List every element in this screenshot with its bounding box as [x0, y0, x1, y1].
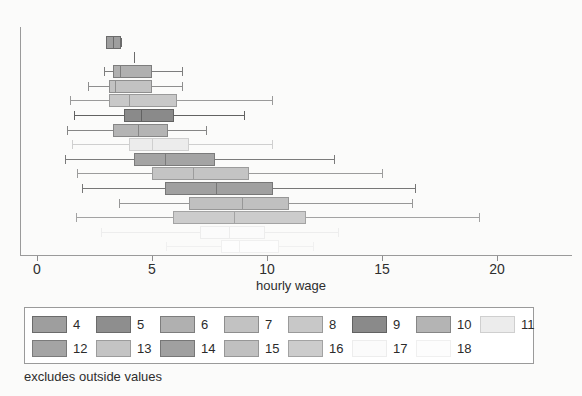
legend-entry[interactable]: 10: [416, 316, 473, 333]
legend-entry[interactable]: 11: [480, 316, 537, 333]
legend-label: 18: [457, 341, 473, 356]
legend-row: 4567891011: [32, 313, 544, 335]
legend-entry[interactable]: 18: [416, 340, 473, 357]
box-iqr: [173, 211, 306, 224]
upper-whisker: [174, 115, 244, 116]
upper-whisker-cap: [412, 199, 413, 208]
lower-whisker-cap: [72, 140, 73, 149]
box-iqr: [152, 167, 249, 180]
box-iqr: [189, 197, 289, 210]
median-line: [216, 182, 217, 195]
legend-entry[interactable]: 6: [160, 316, 217, 333]
upper-whisker: [152, 86, 182, 87]
x-axis-title: hourly wage: [0, 278, 582, 293]
legend-swatch: [480, 316, 515, 333]
median-line: [129, 94, 130, 107]
legend-swatch: [416, 316, 451, 333]
lower-whisker-cap: [67, 126, 68, 135]
median-line: [234, 211, 235, 224]
lower-whisker-cap: [119, 199, 120, 208]
lower-whisker: [70, 100, 109, 101]
legend-swatch: [96, 340, 131, 357]
legend-swatch: [416, 340, 451, 357]
lower-whisker: [82, 188, 165, 189]
median-line: [138, 124, 139, 137]
upper-whisker-cap: [182, 82, 183, 91]
legend-label: 10: [457, 317, 473, 332]
lower-whisker: [119, 203, 189, 204]
lower-whisker-cap: [166, 242, 167, 251]
box-iqr: [109, 94, 177, 107]
lower-whisker: [88, 86, 110, 87]
upper-whisker: [168, 130, 206, 131]
upper-whisker-cap: [479, 213, 480, 222]
x-tick-label: 20: [477, 261, 517, 277]
legend-swatch: [32, 340, 67, 357]
lower-whisker: [72, 144, 130, 145]
median-line: [229, 226, 230, 239]
box-iqr: [129, 138, 189, 151]
lower-whisker-cap: [74, 111, 75, 120]
median-line: [141, 109, 142, 122]
legend-entry[interactable]: 8: [288, 316, 345, 333]
lower-whisker: [65, 159, 134, 160]
upper-whisker: [289, 203, 412, 204]
lower-whisker-cap: [76, 213, 77, 222]
lower-whisker: [76, 217, 173, 218]
legend-swatch: [160, 340, 195, 357]
legend-swatch: [32, 316, 67, 333]
legend-swatch: [96, 316, 131, 333]
median-line: [113, 36, 114, 49]
legend-entry[interactable]: 9: [352, 316, 409, 333]
upper-whisker-cap: [244, 111, 245, 120]
legend-label: 12: [73, 341, 89, 356]
upper-whisker: [249, 173, 382, 174]
legend-label: 17: [393, 341, 409, 356]
box-iqr: [221, 240, 279, 253]
upper-whisker: [306, 217, 479, 218]
legend-entry[interactable]: 14: [160, 340, 217, 357]
upper-whisker: [265, 232, 339, 233]
legend-swatch: [224, 316, 259, 333]
legend-row: 12131415161718: [32, 337, 480, 359]
lower-whisker: [166, 246, 221, 247]
legend-entry[interactable]: 17: [352, 340, 409, 357]
legend-entry[interactable]: 4: [32, 316, 89, 333]
upper-whisker-cap: [121, 38, 122, 47]
legend-label: 9: [393, 317, 409, 332]
lower-whisker-cap: [104, 67, 105, 76]
box-iqr: [200, 226, 264, 239]
plot-area: 05101520 hourly wage: [0, 0, 582, 262]
lower-whisker-cap: [88, 82, 89, 91]
upper-whisker: [279, 246, 314, 247]
upper-whisker: [177, 100, 271, 101]
upper-whisker-cap: [313, 242, 314, 251]
upper-whisker: [189, 144, 272, 145]
box-iqr: [165, 182, 273, 195]
legend-label: 16: [329, 341, 345, 356]
upper-whisker-cap: [182, 67, 183, 76]
lower-whisker-cap: [77, 169, 78, 178]
lower-whisker-cap: [101, 228, 102, 237]
legend-entry[interactable]: 16: [288, 340, 345, 357]
legend-label: 11: [521, 317, 537, 332]
median-line: [152, 138, 153, 151]
x-tick-label: 10: [247, 261, 287, 277]
legend-swatch: [288, 340, 323, 357]
lower-whisker-cap: [70, 96, 71, 105]
upper-whisker: [273, 188, 416, 189]
upper-whisker-cap: [272, 96, 273, 105]
single-value-marker: [134, 52, 135, 63]
x-tick-label: 15: [362, 261, 402, 277]
median-line: [120, 65, 121, 78]
x-tick-label: 0: [17, 261, 57, 277]
legend-entry[interactable]: 12: [32, 340, 89, 357]
legend-label: 8: [329, 317, 345, 332]
upper-whisker-cap: [338, 228, 339, 237]
legend-entry[interactable]: 15: [224, 340, 281, 357]
legend-label: 15: [265, 341, 281, 356]
legend-entry[interactable]: 7: [224, 316, 281, 333]
legend-entry[interactable]: 13: [96, 340, 153, 357]
legend-swatch: [160, 316, 195, 333]
legend-entry[interactable]: 5: [96, 316, 153, 333]
